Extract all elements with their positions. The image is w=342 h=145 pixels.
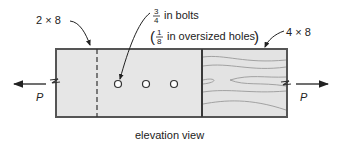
hole-fraction-numerator: 1: [157, 28, 162, 37]
elevation-view-diagram: P P 2 × 8 4 × 8 3 4 in bolts ( 1 8 in ov…: [0, 0, 342, 145]
load-label-left: P: [36, 91, 44, 103]
view-caption: elevation view: [135, 129, 204, 141]
bolt-size-label: in bolts: [164, 9, 199, 21]
right-member-leader: [265, 31, 284, 47]
bolt-hole-1: [115, 81, 122, 88]
bolt-hole-3: [171, 81, 178, 88]
left-member-label: 2 × 8: [36, 14, 61, 26]
bolt-fraction-numerator: 3: [154, 7, 159, 16]
hole-open-paren: (: [150, 28, 155, 45]
right-member-label: 4 × 8: [286, 26, 311, 38]
left-member-2x8: [56, 49, 202, 117]
hole-fraction-denominator: 8: [157, 37, 162, 46]
left-member-leader: [70, 21, 90, 45]
bolt-hole-2: [143, 81, 150, 88]
hole-close-paren: ): [254, 28, 259, 45]
oversized-holes-label: in oversized holes: [167, 30, 256, 42]
bolt-fraction-denominator: 4: [154, 16, 159, 25]
load-label-right: P: [300, 91, 308, 103]
